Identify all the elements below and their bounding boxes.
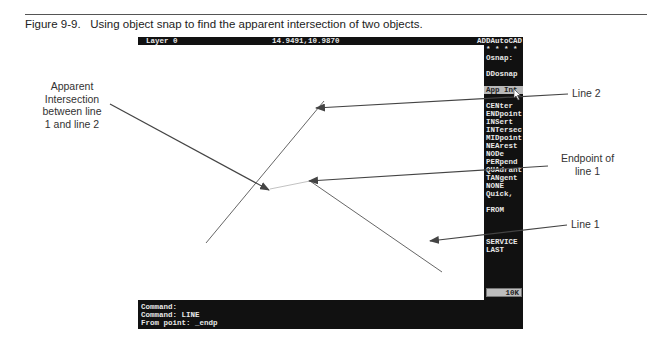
callout-text-line: Apparent [30, 80, 114, 93]
callout-arrow-line2 [316, 94, 568, 108]
callout-arrow-line1 [430, 225, 567, 241]
callout-apparent-intersection: Apparent Intersection between line 1 and… [30, 80, 114, 130]
callout-text-line: Intersection [30, 93, 114, 106]
line-2 [206, 101, 324, 243]
callout-arrow-intersection [110, 104, 269, 190]
callout-text-line: Endpoint of [555, 152, 620, 165]
mouse-cursor-icon [514, 89, 521, 100]
callout-text-line: between line [30, 105, 114, 118]
line-1-extension [270, 181, 310, 189]
callout-text-line: 1 and line 2 [30, 118, 114, 131]
callout-arrow-endpoint [309, 166, 548, 181]
callout-line-1: Line 1 [571, 218, 600, 231]
callout-line-2: Line 2 [572, 87, 601, 100]
line-1 [310, 181, 442, 272]
callout-endpoint: Endpoint of line 1 [555, 152, 620, 177]
callout-text-line: line 1 [555, 165, 620, 178]
